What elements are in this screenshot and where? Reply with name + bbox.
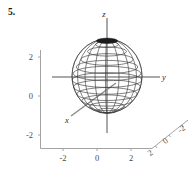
y-axis-label: y	[161, 72, 166, 82]
z-tick-label-neg2: -2	[26, 130, 33, 140]
meridian-5	[107, 39, 119, 113]
frame-depth-edge	[152, 120, 188, 149]
x-tick-label-neg2: -2	[59, 153, 66, 163]
y-tick-label-0: 0	[160, 135, 170, 145]
y-tick-label-2: 2	[145, 147, 155, 157]
x-tick-label-2: 2	[129, 153, 133, 163]
figure-container: 5.	[0, 0, 196, 178]
polar-cap-ellipse	[97, 38, 118, 43]
z-tick-label-2: 2	[29, 52, 33, 62]
tick-y-0	[169, 135, 171, 137]
x-tick-label-0: 0	[95, 153, 99, 163]
y-tick-label-neg2: -2	[175, 123, 187, 135]
tick-y-2	[156, 146, 158, 148]
z-axis-label: z	[101, 9, 106, 19]
sphere-polar-cap	[97, 38, 118, 43]
x-axis-label: x	[64, 115, 69, 125]
sphere-plot: z y x 2 0 -2 -2 0 2 2 0 -2	[0, 0, 196, 178]
z-tick-label-0: 0	[29, 91, 33, 101]
